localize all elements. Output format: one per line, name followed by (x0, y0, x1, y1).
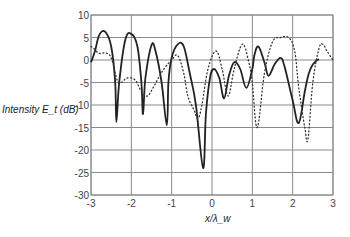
y-tick-label: 5 (83, 33, 89, 44)
x-tick-label: 2 (290, 198, 296, 209)
y-tick-label: 10 (78, 10, 90, 21)
x-tick-label: 3 (330, 198, 336, 209)
x-axis-label: x/λ_w (204, 213, 231, 224)
grid-lines (91, 15, 333, 195)
y-tick-label: -15 (75, 123, 90, 134)
y-tick-label: -25 (75, 168, 90, 179)
x-tick-label: -2 (127, 198, 136, 209)
x-tick-label: 0 (209, 198, 215, 209)
x-tick-label: 1 (250, 198, 256, 209)
series-solid-line (91, 31, 319, 168)
y-tick-label: 0 (83, 55, 89, 66)
x-axis-ticks: -3-2-10123 (87, 198, 337, 209)
y-tick-label: -5 (80, 78, 89, 89)
y-axis-label: Intensity E_t (dB) (2, 104, 79, 115)
y-tick-label: -20 (75, 145, 90, 156)
line-chart: 1050-5-10-15-20-25-30 -3-2-10123 Intensi… (0, 0, 350, 237)
x-tick-label: -3 (87, 198, 96, 209)
x-tick-label: -1 (167, 198, 176, 209)
